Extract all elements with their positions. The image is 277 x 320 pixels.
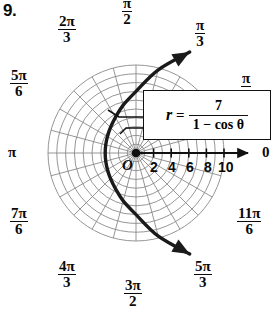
radial-tick-6: 6 [186,160,194,174]
radial-tick-4: 4 [168,160,176,174]
radial-tick-10: 10 [218,160,234,174]
equation-numerator: 7 [189,98,248,116]
angle-label-four-pi-over-3: 4π 3 [58,259,76,290]
angle-label-two-pi-over-3: 2π 3 [58,14,76,45]
angle-label-seven-pi-over-6: 7π 6 [10,206,28,237]
angle-label-pi-over-6: π 6 [241,70,251,87]
origin-label: O [122,158,133,173]
equation-fraction: 7 1 − cos θ [189,98,248,133]
angle-label-zero: 0 [262,145,270,160]
callout-leader-line-lower [120,128,143,134]
angle-label-five-pi-over-6: 5π 6 [10,68,28,99]
equation-callout-box: r = 7 1 − cos θ [143,90,271,140]
radial-tick-8: 8 [204,160,212,174]
angle-label-five-pi-over-3: 5π 3 [194,259,212,290]
equation-denominator: 1 − cos θ [189,116,248,133]
angle-label-three-pi-over-2: 3π 2 [124,278,142,309]
equation-equals-sign: = [176,107,185,124]
problem-number: 9. [3,2,16,19]
angle-label-pi: π [8,145,16,160]
polar-graph-figure [0,0,277,320]
polar-axis [136,149,248,158]
angle-label-pi-over-3: π 3 [195,18,205,49]
equation-lhs: r [166,106,172,124]
angle-label-pi-over-2: π 2 [122,0,132,27]
equation-row: r = 7 1 − cos θ [166,98,248,133]
origin-point [132,149,141,158]
radial-tick-2: 2 [150,160,158,174]
angle-label-eleven-pi-over-6: 11π 6 [237,206,261,237]
